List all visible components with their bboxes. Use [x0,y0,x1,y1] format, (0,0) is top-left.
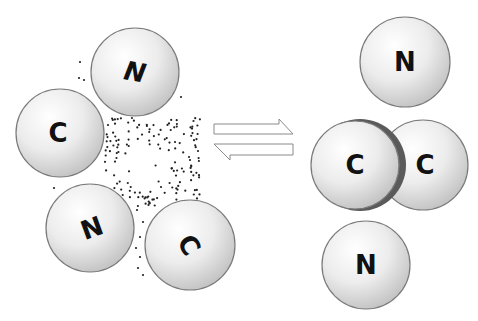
left-state: N C N C [16,28,235,290]
atom-n-left-top: N [91,28,179,116]
atom-label: C [345,150,364,180]
atom-c-left-bottom: C [145,200,235,290]
atom-label: C [48,118,67,148]
atom-label: C [415,150,434,180]
equilibrium-diagram: N C N C N C C [0,0,478,321]
atom-n-right-bottom: N [322,221,410,309]
atom-label: N [355,250,377,280]
right-state: N C C N [311,17,468,309]
atom-n-left-bottom: N [46,184,134,272]
reverse-arrow-icon [214,144,293,160]
molecule-c-c: C C [311,119,468,211]
forward-arrow-icon [214,119,293,134]
equilibrium-arrows [214,119,293,160]
atom-n-right-top: N [360,17,450,107]
atom-c-left-middle: C [16,89,104,177]
atom-label: N [394,47,416,77]
